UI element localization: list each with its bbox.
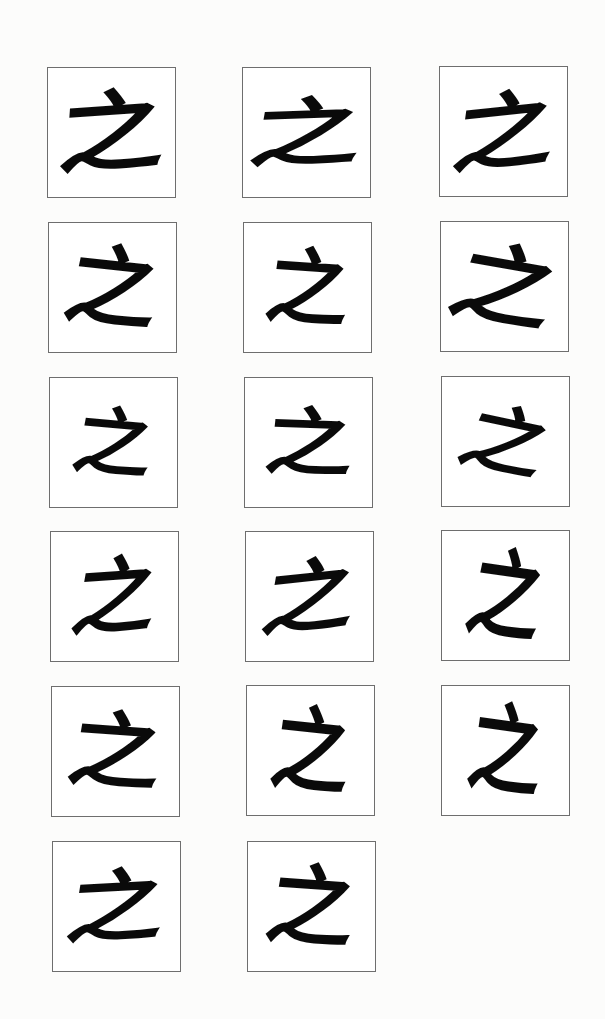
calligraphy-character: 之 (56, 85, 168, 180)
specimen-box: 之 (246, 685, 375, 816)
specimen-box: 之 (245, 531, 374, 662)
calligraphy-character: 之 (58, 240, 168, 336)
calligraphy-character: 之 (459, 543, 552, 648)
specimen-box: 之 (441, 530, 570, 661)
calligraphy-character: 之 (62, 707, 168, 795)
calligraphy-character: 之 (260, 244, 354, 332)
specimen-box: 之 (49, 377, 178, 508)
specimen-box: 之 (439, 66, 568, 197)
specimen-box: 之 (247, 841, 376, 972)
calligraphy-character: 之 (245, 94, 368, 172)
calligraphy-character: 之 (450, 399, 562, 485)
specimen-box: 之 (242, 67, 371, 198)
specimen-box: 之 (244, 377, 373, 508)
calligraphy-character: 之 (440, 236, 569, 337)
specimen-box: 之 (441, 685, 570, 816)
specimen-box: 之 (243, 222, 372, 353)
calligraphy-character: 之 (261, 404, 356, 480)
calligraphy-character: 之 (260, 860, 362, 953)
calligraphy-character: 之 (462, 698, 548, 804)
specimen-box: 之 (51, 686, 180, 817)
specimen-box: 之 (441, 376, 570, 507)
specimen-box: 之 (47, 67, 176, 198)
calligraphy-character: 之 (447, 84, 560, 179)
calligraphy-character: 之 (62, 864, 171, 948)
specimen-box: 之 (48, 222, 177, 353)
calligraphy-sheet: 之之之之之之之之之之之之之之之之之 (0, 0, 605, 1019)
calligraphy-character: 之 (66, 552, 163, 642)
calligraphy-character: 之 (67, 403, 159, 482)
calligraphy-character: 之 (257, 552, 363, 642)
calligraphy-character: 之 (265, 701, 356, 800)
specimen-box: 之 (50, 531, 179, 662)
specimen-box: 之 (52, 841, 181, 972)
specimen-box: 之 (440, 221, 569, 352)
